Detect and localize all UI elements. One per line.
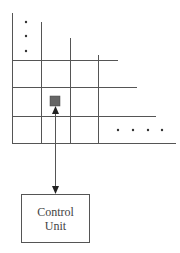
vertical-ellipsis <box>25 21 27 52</box>
bidirectional-arrow <box>52 106 59 194</box>
processing-element <box>50 96 60 106</box>
arrow-down-icon <box>52 186 59 194</box>
control-unit-label-line2: Unit <box>45 219 66 233</box>
control-unit-label-line1: Control <box>37 205 74 219</box>
control-unit-box: Control Unit <box>21 194 90 243</box>
horizontal-ellipsis <box>117 129 163 131</box>
grid-lines <box>12 13 176 144</box>
arrow-up-icon <box>52 106 59 114</box>
